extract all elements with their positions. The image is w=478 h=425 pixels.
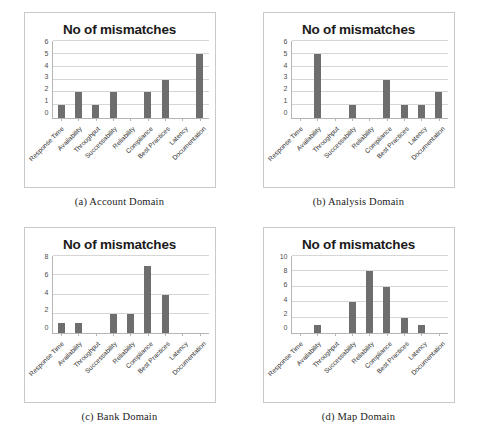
bar[interactable]: [349, 302, 356, 333]
bar-slot: [191, 41, 208, 118]
y-axis-b: 6543210: [270, 41, 288, 119]
x-label-slot: Documentation: [432, 123, 450, 185]
x-axis-tick: [148, 333, 149, 336]
bar[interactable]: [58, 105, 65, 118]
bar-slot: [174, 256, 191, 333]
y-axis-tick: 10: [280, 253, 288, 260]
bar[interactable]: [314, 54, 321, 118]
y-axis-tick: 6: [284, 281, 288, 288]
x-axis-tick: [96, 118, 97, 121]
bar-slot: [413, 256, 430, 333]
x-label-slot: Response Time: [52, 338, 70, 400]
bar-slot: [122, 256, 139, 333]
x-axis-tick: [78, 333, 79, 336]
bar-slot: [326, 41, 343, 118]
bar[interactable]: [144, 266, 151, 333]
chart-panel-c: No of mismatches 86420 Response TimeAvai…: [24, 227, 216, 403]
x-axis-tick: [317, 333, 318, 336]
bar[interactable]: [418, 105, 425, 118]
x-axis-tick: [317, 118, 318, 121]
bar[interactable]: [349, 105, 356, 118]
x-label-slot: Documentation: [193, 123, 211, 185]
y-axis-tick: 0: [45, 109, 49, 116]
x-axis-tick: [404, 333, 405, 336]
bar-slot: [343, 41, 360, 118]
bar-slot: [139, 256, 156, 333]
x-axis-tick: [335, 118, 336, 121]
y-axis-tick: 3: [284, 73, 288, 80]
bar[interactable]: [383, 80, 390, 119]
figure-panel-c: No of mismatches 86420 Response TimeAvai…: [0, 215, 239, 425]
x-label-slot: Response Time: [291, 338, 309, 400]
bar-slot: [156, 41, 173, 118]
bar-slot: [292, 41, 309, 118]
plot-canvas-c: [52, 256, 209, 334]
x-axis-tick: [439, 118, 440, 121]
x-axis-tick: [300, 333, 301, 336]
y-axis-tick: 1: [45, 97, 49, 104]
bar-slot: [361, 256, 378, 333]
y-axis-tick: 4: [45, 289, 49, 296]
x-axis-labels-b: Response TimeAvailabilityThroughputSucce…: [291, 123, 450, 185]
bar-series: [292, 256, 448, 333]
y-axis-tick: 8: [284, 267, 288, 274]
figure-panel-d: No of mismatches 1086420 Response TimeAv…: [239, 215, 478, 425]
x-axis-tick: [369, 118, 370, 121]
bar-slot: [104, 41, 121, 118]
figure-panel-a: No of mismatches 6543210 Response TimeAv…: [0, 0, 239, 215]
bar-series: [53, 41, 209, 118]
bar[interactable]: [418, 325, 425, 333]
y-axis-c: 86420: [31, 256, 49, 334]
bar[interactable]: [110, 314, 117, 333]
bar[interactable]: [314, 325, 321, 333]
bar[interactable]: [162, 295, 169, 334]
bar[interactable]: [58, 323, 65, 333]
bar-slot: [191, 256, 208, 333]
bar-slot: [174, 41, 191, 118]
bar[interactable]: [401, 105, 408, 118]
bar[interactable]: [92, 105, 99, 118]
bar[interactable]: [75, 323, 82, 333]
x-axis-labels-a: Response TimeAvailabilityThroughputSucce…: [52, 123, 211, 185]
plot-area-c: 86420 Response TimeAvailabilityThroughpu…: [25, 256, 215, 334]
y-axis-tick: 2: [45, 85, 49, 92]
y-axis-tick: 2: [284, 310, 288, 317]
y-axis-tick: 2: [284, 85, 288, 92]
y-axis-a: 6543210: [31, 41, 49, 119]
y-axis-tick: 5: [45, 50, 49, 57]
x-axis-tick: [113, 333, 114, 336]
chart-title-a: No of mismatches: [25, 22, 215, 37]
bar[interactable]: [127, 314, 134, 333]
bar-slot: [122, 41, 139, 118]
bar[interactable]: [75, 92, 82, 118]
bar-slot: [156, 256, 173, 333]
chart-title-b: No of mismatches: [264, 22, 454, 37]
bar[interactable]: [162, 80, 169, 119]
figure-panel-b: No of mismatches 6543210 Response TimeAv…: [239, 0, 478, 215]
x-axis-tick: [61, 333, 62, 336]
y-axis-tick: 2: [45, 306, 49, 313]
bar[interactable]: [383, 287, 390, 333]
bar-slot: [87, 256, 104, 333]
bar[interactable]: [196, 54, 203, 118]
bar[interactable]: [110, 92, 117, 118]
bar-slot: [326, 256, 343, 333]
bar[interactable]: [144, 92, 151, 118]
plot-canvas-b: [291, 41, 448, 119]
x-label-slot: Successability: [344, 123, 362, 185]
x-axis-tick: [165, 333, 166, 336]
x-axis-tick: [421, 118, 422, 121]
chart-title-d: No of mismatches: [264, 237, 454, 252]
y-axis-tick: 4: [284, 62, 288, 69]
x-axis-tick: [200, 333, 201, 336]
bar-slot: [395, 41, 412, 118]
bar[interactable]: [366, 271, 373, 333]
x-axis-tick: [404, 118, 405, 121]
x-axis-tick: [387, 118, 388, 121]
bar[interactable]: [435, 92, 442, 118]
x-axis-tick: [113, 118, 114, 121]
bar-slot: [395, 256, 412, 333]
bar[interactable]: [401, 318, 408, 333]
y-axis-tick: 6: [45, 38, 49, 45]
x-axis-tick: [387, 333, 388, 336]
